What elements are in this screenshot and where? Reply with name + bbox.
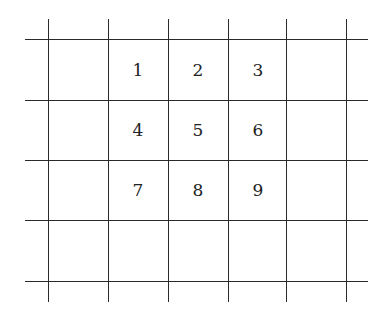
cell-label: 7 <box>108 180 168 200</box>
cell-label: 1 <box>108 60 168 80</box>
cell-label: 6 <box>228 120 288 140</box>
cell-label: 4 <box>108 120 168 140</box>
cell-label: 2 <box>168 60 228 80</box>
cell-label: 5 <box>168 120 228 140</box>
grid-line-horizontal <box>25 39 368 40</box>
cell-label: 8 <box>168 180 228 200</box>
grid-line-horizontal <box>25 220 368 221</box>
cell-label: 3 <box>228 60 288 80</box>
grid-line-horizontal <box>25 281 368 282</box>
grid-line-horizontal <box>25 100 368 101</box>
grid-line-horizontal <box>25 160 368 161</box>
cell-label: 9 <box>228 180 288 200</box>
